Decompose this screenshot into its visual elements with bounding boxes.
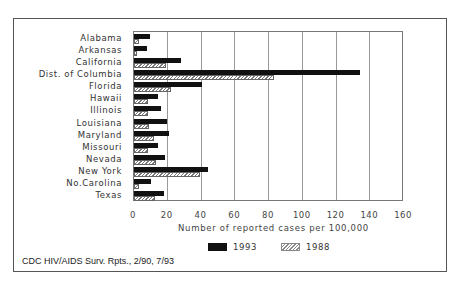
- bar-1988: [134, 148, 148, 153]
- x-tick-label: 60: [228, 210, 240, 220]
- legend-item-1988: 1988: [281, 242, 330, 252]
- x-tick-label: 160: [394, 210, 412, 220]
- category-label: No.Carolina: [66, 178, 122, 188]
- bar-1988: [134, 111, 148, 116]
- bar-1988: [134, 196, 155, 201]
- category-label: Louisiana: [76, 118, 122, 128]
- bar-1988: [134, 99, 148, 104]
- plot-area: [133, 31, 403, 201]
- source-caption: CDC HIV/AIDS Surv. Rpts., 2/90, 7/93: [22, 256, 174, 266]
- category-label: Missouri: [82, 142, 122, 152]
- x-tick-label: 80: [262, 210, 274, 220]
- category-label: Illinois: [90, 105, 122, 115]
- hatched-swatch-icon: [281, 243, 300, 251]
- bar-1988: [134, 39, 139, 44]
- gridline: [369, 32, 370, 200]
- bar-1988: [134, 136, 154, 141]
- bar-1988: [134, 184, 139, 189]
- category-label: Texas: [96, 190, 123, 200]
- x-tick-label: 120: [327, 210, 345, 220]
- x-tick-label: 20: [161, 210, 173, 220]
- x-tick-label: 100: [293, 210, 311, 220]
- bar-1988: [134, 63, 166, 68]
- bar-1988: [134, 51, 137, 56]
- category-label: California: [76, 57, 122, 67]
- x-tick-label: 40: [195, 210, 207, 220]
- bar-1988: [134, 172, 200, 177]
- gridline: [234, 32, 235, 200]
- legend-item-1993: 1993: [208, 242, 257, 252]
- category-label: Hawaii: [90, 93, 122, 103]
- gridline: [268, 32, 269, 200]
- category-label: Dist. of Columbia: [39, 69, 122, 79]
- bar-1988: [134, 75, 274, 80]
- solid-swatch-icon: [208, 243, 227, 251]
- gridline: [201, 32, 202, 200]
- x-axis-label: Number of reported cases per 100,000: [178, 223, 369, 233]
- x-tick-label: 140: [360, 210, 378, 220]
- bar-1988: [134, 124, 149, 129]
- category-label: Nevada: [86, 154, 122, 164]
- legend: 1993 1988: [208, 242, 354, 252]
- category-label: Florida: [89, 81, 122, 91]
- gridline: [336, 32, 337, 200]
- gridline: [302, 32, 303, 200]
- category-label: New York: [78, 166, 122, 176]
- category-label: Alabama: [80, 33, 122, 43]
- bar-1988: [134, 160, 156, 165]
- category-label: Maryland: [78, 130, 122, 140]
- bar-1988: [134, 87, 171, 92]
- legend-label: 1988: [306, 242, 330, 252]
- legend-label: 1993: [233, 242, 257, 252]
- x-tick-label: 0: [130, 210, 136, 220]
- category-label: Arkansas: [78, 45, 122, 55]
